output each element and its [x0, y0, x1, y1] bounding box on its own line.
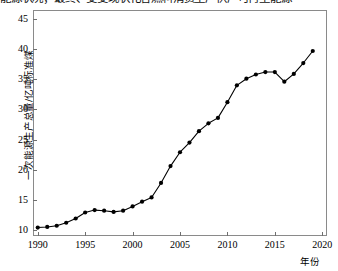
x-tick-label: 1990: [18, 240, 58, 250]
data-point: [254, 72, 258, 76]
data-point: [149, 195, 153, 199]
data-point: [83, 210, 87, 214]
data-point: [216, 116, 220, 120]
data-point: [273, 70, 277, 74]
y-tick-mark: [33, 140, 37, 141]
data-point: [64, 221, 68, 225]
data-point: [197, 129, 201, 133]
x-tick-mark: [227, 232, 228, 236]
data-point: [130, 204, 134, 208]
data-point: [235, 83, 239, 87]
x-tick-mark: [38, 232, 39, 236]
y-tick-mark: [33, 170, 37, 171]
x-tick-mark: [85, 232, 86, 236]
x-tick-mark: [322, 232, 323, 236]
data-point: [206, 121, 210, 125]
y-tick-label: 20: [6, 165, 28, 175]
data-point: [45, 225, 49, 229]
x-tick-label: 1995: [65, 240, 105, 250]
data-point: [263, 70, 267, 74]
data-point: [112, 210, 116, 214]
x-tick-label: 2005: [160, 240, 200, 250]
data-point: [168, 164, 172, 168]
data-point: [292, 72, 296, 76]
y-tick-mark: [33, 200, 37, 201]
line-chart-plot: [33, 10, 327, 236]
data-point: [311, 49, 315, 53]
y-tick-mark: [33, 49, 37, 50]
y-tick-label: 40: [6, 44, 28, 54]
x-tick-label: 2010: [207, 240, 247, 250]
y-tick-label: 15: [6, 195, 28, 205]
series-line-primary: [38, 51, 313, 228]
x-tick-label: 2015: [255, 240, 295, 250]
series-markers-primary: [36, 49, 315, 230]
y-tick-mark: [33, 109, 37, 110]
y-tick-label: 10: [6, 225, 28, 235]
x-tick-label: 2020: [302, 240, 338, 250]
y-tick-label: 30: [6, 104, 28, 114]
data-point: [187, 140, 191, 144]
y-tick-mark: [33, 19, 37, 20]
y-tick-mark: [33, 79, 37, 80]
data-point: [140, 200, 144, 204]
data-point: [301, 61, 305, 65]
data-point: [93, 208, 97, 212]
y-tick-label: 45: [6, 14, 28, 24]
data-point: [74, 216, 78, 220]
x-axis-label: 年份: [288, 254, 332, 268]
data-point: [178, 150, 182, 154]
x-tick-mark: [133, 232, 134, 236]
x-tick-mark: [180, 232, 181, 236]
data-point: [244, 77, 248, 81]
clipped-header-text: 能源状况；最终、变变现状化各燃料消费生产供产可再生能源: [0, 0, 338, 5]
figure-container: 能源状况；最终、变变现状化各燃料消费生产供产可再生能源 一次能源生产总量/亿吨标…: [0, 0, 338, 271]
y-tick-mark: [33, 230, 37, 231]
data-point: [159, 181, 163, 185]
x-tick-label: 2000: [113, 240, 153, 250]
data-point: [225, 100, 229, 104]
y-tick-label: 35: [6, 74, 28, 84]
data-point: [282, 80, 286, 84]
data-point: [102, 209, 106, 213]
x-tick-mark: [275, 232, 276, 236]
data-point: [121, 209, 125, 213]
data-point: [55, 224, 59, 228]
y-tick-label: 25: [6, 135, 28, 145]
